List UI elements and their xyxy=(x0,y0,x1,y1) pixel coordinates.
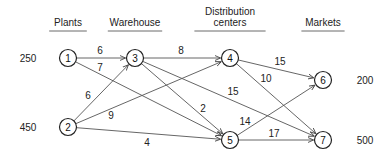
node-6: 6 xyxy=(315,72,332,89)
quantity-node-7: 500 xyxy=(357,135,374,146)
node-label: 2 xyxy=(65,122,71,133)
edge-3-to-7 xyxy=(143,61,315,136)
edge-cost-5-7: 17 xyxy=(268,128,280,139)
node-label: 6 xyxy=(320,75,326,86)
header-plants: Plants xyxy=(54,17,82,28)
header-distribution-centers: Distribution xyxy=(205,6,255,17)
edge-1-to-5 xyxy=(76,62,222,136)
edge-cost-labels: 67694821515101417 xyxy=(85,45,286,148)
node-5: 5 xyxy=(222,132,239,149)
node-4: 4 xyxy=(222,50,239,67)
quantity-node-1: 250 xyxy=(20,53,37,64)
header-distribution-centers: centers xyxy=(214,17,247,28)
node-label: 7 xyxy=(320,135,326,146)
edge-3-to-5 xyxy=(141,64,222,134)
edge-cost-2-4: 9 xyxy=(108,110,114,121)
edge-cost-2-5: 4 xyxy=(144,137,150,148)
node-1: 1 xyxy=(60,50,77,67)
node-2: 2 xyxy=(60,119,77,136)
edge-cost-4-7: 10 xyxy=(260,73,272,84)
quantity-node-6: 200 xyxy=(357,75,374,86)
edges xyxy=(74,58,316,140)
node-label: 5 xyxy=(227,135,233,146)
header-markets: Markets xyxy=(305,17,341,28)
node-label: 1 xyxy=(65,53,71,64)
edge-cost-1-3: 6 xyxy=(97,45,103,56)
edge-cost-3-5: 2 xyxy=(200,103,206,114)
edge-cost-3-7: 15 xyxy=(227,86,239,97)
node-7: 7 xyxy=(315,132,332,149)
quantity-node-2: 450 xyxy=(20,122,37,133)
edge-cost-4-6: 15 xyxy=(274,56,286,67)
edge-cost-1-5: 7 xyxy=(97,62,103,73)
header-warehouse: Warehouse xyxy=(110,17,161,28)
transportation-network-diagram: 67694821515101417 PlantsWarehouseDistrib… xyxy=(0,0,392,157)
column-headers: PlantsWarehouseDistributioncentersMarket… xyxy=(49,6,344,31)
edge-cost-2-3: 6 xyxy=(85,90,91,101)
edge-cost-3-4: 8 xyxy=(178,45,184,56)
node-label: 3 xyxy=(132,53,138,64)
node-label: 4 xyxy=(227,53,233,64)
node-3: 3 xyxy=(127,50,144,67)
edge-cost-5-6: 14 xyxy=(239,116,251,127)
